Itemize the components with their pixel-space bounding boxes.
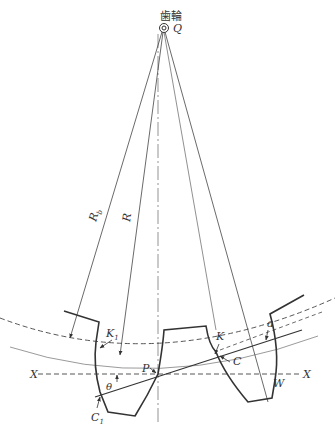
label-x-right: X <box>302 368 312 381</box>
label-theta: θ <box>106 381 112 392</box>
label-x-left: X <box>29 368 39 381</box>
label-w: W <box>273 377 286 390</box>
title: 歯輪 <box>160 9 182 23</box>
base-radius-line <box>70 32 162 338</box>
label-rb: Rb <box>86 206 105 224</box>
label-c1: C1 <box>91 411 104 426</box>
pitch-circle <box>10 336 318 369</box>
line-of-action <box>95 330 302 397</box>
label-c: C <box>233 355 242 368</box>
label-r: R <box>120 212 134 223</box>
arrow-k1 <box>100 340 112 348</box>
label-alpha: a <box>267 317 274 330</box>
label-q: Q <box>173 22 182 35</box>
label-k1: K1 <box>105 327 119 342</box>
arrow-c <box>220 356 230 362</box>
label-p: P <box>141 362 150 375</box>
pitch-radius-line <box>120 32 163 355</box>
center-point-q <box>160 24 169 33</box>
radial-line-k <box>164 32 216 330</box>
gear-diagram: 歯輪 Q Rb R K1 K P C θ C1 a W X X <box>0 0 335 439</box>
label-k: K <box>215 330 225 343</box>
arrow-a <box>266 330 268 340</box>
arrow-c1 <box>97 397 100 408</box>
